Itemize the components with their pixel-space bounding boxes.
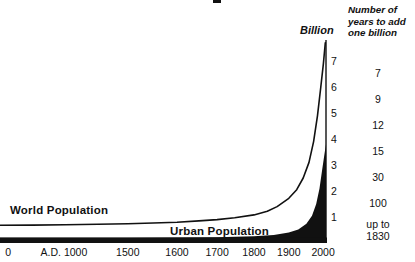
years-to-add-value: 7 (356, 68, 400, 80)
y-tick-label: 7 (331, 55, 337, 67)
x-tick-label: 1500 (116, 246, 139, 258)
y-tick-label: 4 (331, 133, 337, 145)
years-to-add-value: 30 (356, 172, 400, 184)
population-growth-figure: World Population Urban Population Billio… (0, 0, 415, 262)
right-column-header: Number of years to add one billion (348, 4, 406, 39)
x-tick-label: 2000 (311, 246, 334, 258)
x-axis-line (0, 238, 327, 244)
years-to-add-value: up to 1830 (356, 219, 400, 242)
right-column-header-line1: Number of (348, 4, 406, 16)
y-tick-label: 5 (331, 107, 337, 119)
y-axis-title: Billion (300, 24, 334, 36)
world-population-curve (0, 43, 325, 226)
right-column-header-line2: years to add (348, 16, 406, 28)
urban-population-area (0, 144, 326, 243)
y-tick-label: 6 (331, 81, 337, 93)
x-tick-label: A.D. 1000 (41, 246, 88, 258)
x-tick-label: 1800 (242, 246, 265, 258)
x-tick-label: 1600 (165, 246, 188, 258)
world-population-label: World Population (10, 204, 108, 216)
x-tick-label: 0 (5, 246, 11, 258)
years-to-add-value: 12 (356, 120, 400, 132)
years-to-add-value: 100 (356, 198, 400, 210)
right-column-header-line3: one billion (348, 27, 406, 39)
population-chart-canvas (0, 0, 415, 262)
years-to-add-value: 9 (356, 94, 400, 106)
x-tick-label: 1700 (205, 246, 228, 258)
years-to-add-value: 15 (356, 146, 400, 158)
urban-population-label: Urban Population (170, 225, 269, 237)
y-tick-label: 2 (331, 185, 337, 197)
y-tick-label: 1 (331, 211, 337, 223)
y-tick-label: 3 (331, 159, 337, 171)
x-tick-label: 1900 (277, 246, 300, 258)
